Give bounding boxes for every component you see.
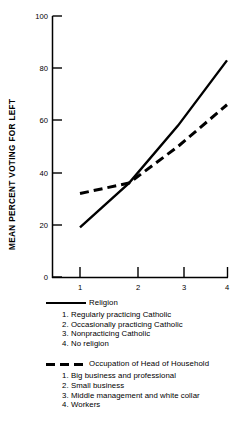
list-item: 1.Regularly practicing Catholic	[62, 310, 248, 320]
legend-item-number: 3.	[62, 391, 71, 401]
y-tick-label-100: 100	[35, 12, 48, 21]
legend-item-label: Nonpracticing Catholic	[71, 329, 150, 338]
legend-items-occupation: 1.Big business and professional 2.Small …	[0, 371, 248, 409]
solid-line-swatch-icon	[46, 296, 86, 309]
y-axis-title: MEAN PERCENT VOTING FOR LEFT	[8, 99, 17, 250]
legend-item-number: 1.	[62, 310, 71, 320]
legend-item-number: 1.	[62, 371, 71, 381]
legend-item-number: 4.	[62, 339, 71, 349]
legend-item-number: 2.	[62, 381, 71, 391]
y-tick-label-80: 80	[40, 64, 48, 73]
x-tick-label-1: 1	[78, 283, 82, 292]
series-line-occupation	[80, 105, 227, 194]
chart-area: MEAN PERCENT VOTING FOR LEFT 100 80 60 4…	[0, 0, 248, 296]
legend-item-label: Regularly practicing Catholic	[71, 310, 171, 319]
x-tick-label-3: 3	[182, 283, 186, 292]
legend-item-label: Workers	[71, 400, 100, 409]
list-item: 3.Nonpracticing Catholic	[62, 329, 248, 339]
legend-item-number: 2.	[62, 320, 71, 330]
legend-group-occupation: Occupation of Head of Household 1.Big bu…	[0, 357, 248, 409]
y-tick-label-0: 0	[44, 273, 48, 282]
list-item: 4.Workers	[62, 400, 248, 410]
legend-items-religion: 1.Regularly practicing Catholic 2.Occasi…	[0, 310, 248, 348]
y-axis-ticks	[53, 16, 63, 277]
x-tick-label-2: 2	[136, 283, 140, 292]
legend-item-label: Big business and professional	[71, 371, 176, 380]
legend-item-number: 4.	[62, 400, 71, 410]
x-tick-label-4: 4	[225, 283, 229, 292]
dashed-line-swatch-icon	[46, 357, 86, 370]
y-tick-label-60: 60	[40, 116, 48, 125]
legend-header-religion: Religion	[0, 296, 248, 309]
list-item: 3.Middle management and white collar	[62, 391, 248, 401]
series-line-religion	[80, 60, 227, 227]
chart-legend: Religion 1.Regularly practicing Catholic…	[0, 296, 248, 422]
legend-title-religion: Religion	[89, 298, 118, 307]
legend-item-label: No religion	[71, 339, 109, 348]
legend-group-religion: Religion 1.Regularly practicing Catholic…	[0, 296, 248, 348]
list-item: 2.Small business	[62, 381, 248, 391]
line-chart: MEAN PERCENT VOTING FOR LEFT 100 80 60 4…	[0, 0, 248, 296]
legend-item-label: Middle management and white collar	[71, 391, 200, 400]
list-item: 4.No religion	[62, 339, 248, 349]
legend-item-label: Small business	[71, 381, 124, 390]
legend-item-label: Occasionally practicing Catholic	[71, 320, 183, 329]
y-tick-label-20: 20	[40, 221, 48, 230]
x-axis-ticks	[80, 267, 228, 278]
legend-header-occupation: Occupation of Head of Household	[0, 357, 248, 370]
list-item: 1.Big business and professional	[62, 371, 248, 381]
legend-item-number: 3.	[62, 329, 71, 339]
list-item: 2.Occasionally practicing Catholic	[62, 320, 248, 330]
y-tick-label-40: 40	[40, 169, 48, 178]
legend-title-occupation: Occupation of Head of Household	[89, 359, 209, 368]
